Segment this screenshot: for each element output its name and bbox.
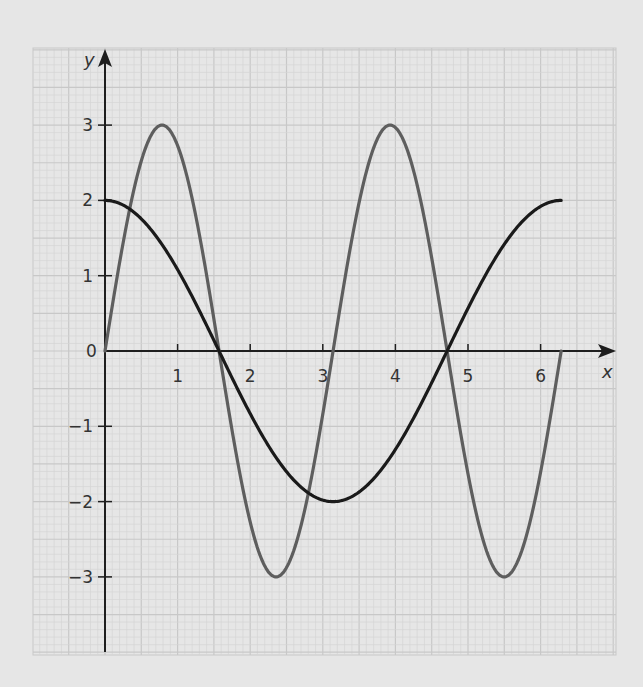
- y-tick-label: −1: [68, 416, 93, 436]
- y-tick-label: 3: [82, 115, 93, 135]
- x-tick-label: 4: [390, 366, 401, 386]
- y-tick-label: 2: [82, 190, 93, 210]
- y-tick-label: −3: [68, 567, 93, 587]
- x-tick-label: 5: [463, 366, 474, 386]
- x-tick-label: 6: [535, 366, 546, 386]
- chart: x y 0 123456321−1−2−3: [0, 0, 643, 687]
- y-axis-label: y: [83, 49, 95, 70]
- x-axis-label: x: [601, 361, 613, 382]
- origin-label: 0: [86, 341, 97, 361]
- y-tick-label: 1: [82, 266, 93, 286]
- x-tick-label: 1: [172, 366, 183, 386]
- x-tick-label: 2: [245, 366, 256, 386]
- y-tick-label: −2: [68, 492, 93, 512]
